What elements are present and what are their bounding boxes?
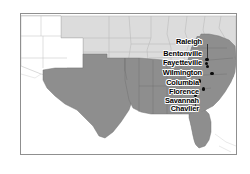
city-label-bentonville: Bentonville	[131, 50, 202, 58]
map-figure: Raleigh Bentonville Fayetteville Wilming…	[0, 0, 250, 174]
leader-line-raleigh	[207, 44, 208, 59]
map-frame: Raleigh Bentonville Fayetteville Wilming…	[20, 13, 237, 155]
city-label-florence: Florence	[147, 88, 199, 96]
city-label-wilmington: Wilmington	[135, 69, 202, 77]
map-graphic	[21, 14, 236, 154]
gulf-water	[113, 110, 197, 152]
city-label-columbia: Columbia	[145, 79, 199, 87]
city-dot-wilmington[interactable]	[210, 72, 213, 75]
city-dot-raleigh[interactable]	[205, 58, 208, 61]
city-label-raleigh: Raleigh	[149, 38, 202, 46]
city-dot-florence[interactable]	[202, 87, 205, 90]
city-label-fayetteville: Fayetteville	[131, 59, 202, 67]
city-label-chavlier: Chavlier	[152, 105, 199, 113]
